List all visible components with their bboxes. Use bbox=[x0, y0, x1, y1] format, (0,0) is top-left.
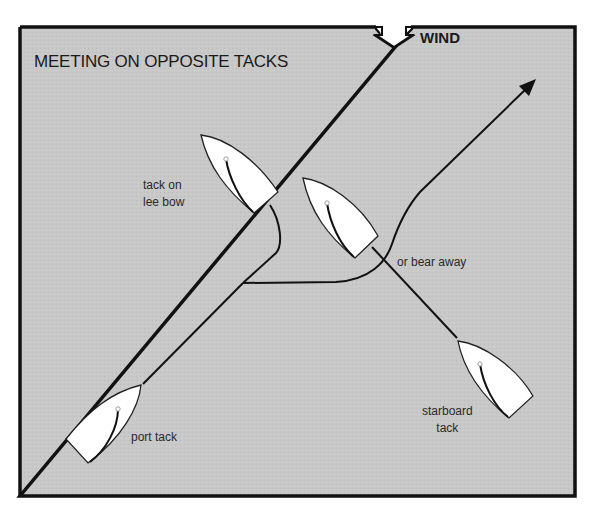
label-tack-on-lee-bow: tack on lee bow bbox=[143, 177, 184, 211]
diagram-canvas bbox=[0, 0, 593, 516]
label-or-bear-away: or bear away bbox=[397, 254, 466, 271]
diagram-title: MEETING ON OPPOSITE TACKS bbox=[34, 52, 288, 72]
label-starboard-tack: starboard tack bbox=[422, 403, 473, 437]
label-port-tack: port tack bbox=[131, 429, 177, 446]
wind-label: WIND bbox=[420, 29, 460, 46]
